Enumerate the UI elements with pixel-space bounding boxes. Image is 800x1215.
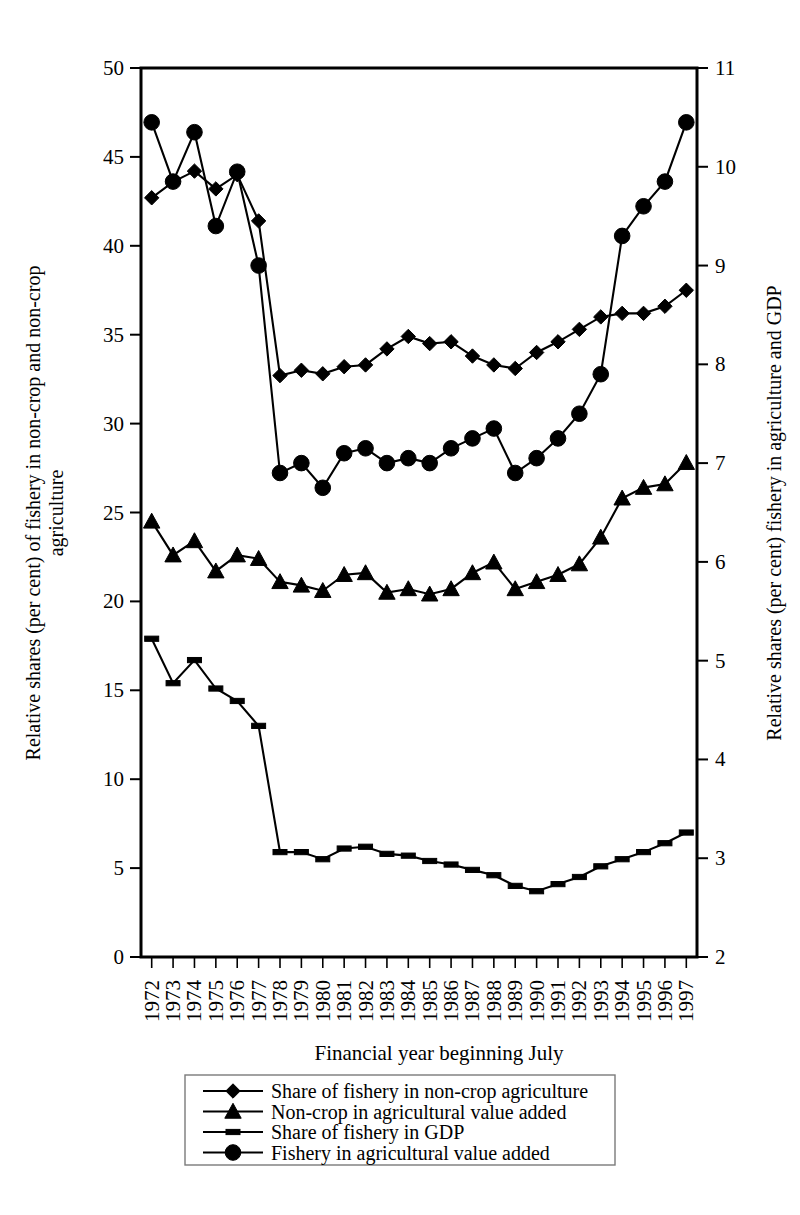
y-axis-left-tick-label: 0 (114, 945, 125, 969)
data-point-dash (316, 857, 330, 862)
data-point-circle (679, 115, 695, 131)
data-point-triangle (186, 533, 202, 548)
y-axis-right-ticks: 234567891011 (697, 56, 736, 969)
data-point-dash (465, 867, 479, 872)
data-point-circle (379, 455, 395, 471)
x-axis-tick-label: 1983 (375, 980, 399, 1022)
data-point-circle (251, 258, 267, 274)
data-point-dash (401, 853, 415, 858)
y-axis-right-title: Relative shares (per cent) fishery in ag… (763, 285, 786, 740)
data-point-circle (486, 421, 502, 437)
data-point-triangle (528, 574, 544, 589)
series-layer (143, 115, 694, 894)
x-axis-tick-label: 1975 (204, 980, 228, 1022)
x-axis-tick-label: 1976 (225, 980, 249, 1022)
series-triangle (143, 455, 694, 601)
data-point-dash (487, 873, 501, 878)
data-point-dash (145, 636, 159, 641)
x-axis-tick-label: 1984 (396, 980, 420, 1023)
y-axis-left-tick-label: 30 (103, 412, 124, 436)
x-axis-tick-label: 1996 (653, 980, 677, 1022)
data-point-diamond (572, 322, 586, 336)
data-point-dash (508, 883, 522, 888)
data-point-diamond (594, 310, 608, 324)
x-axis-tick-label: 1974 (182, 980, 206, 1023)
x-axis-tick-label: 1994 (610, 980, 634, 1023)
data-point-circle (225, 1145, 241, 1161)
data-point-circle (315, 480, 331, 496)
data-point-triangle (593, 529, 609, 544)
data-point-dash (423, 858, 437, 863)
data-point-diamond (294, 363, 308, 377)
data-point-dash (209, 686, 223, 691)
y-axis-left-tick-label: 50 (103, 56, 124, 80)
y-axis-left-tick-label: 25 (103, 501, 124, 525)
data-point-diamond (401, 329, 415, 343)
data-point-dash (551, 882, 565, 887)
x-axis-tick-label: 1997 (674, 980, 698, 1022)
y-axis-left-tick-label: 40 (103, 234, 124, 258)
y-axis-right-tick-label: 7 (715, 451, 726, 475)
x-axis-tick-label: 1980 (311, 980, 335, 1022)
data-point-triangle (165, 547, 181, 562)
data-point-circle (208, 218, 224, 234)
data-point-diamond (251, 214, 265, 228)
x-axis-tick-label: 1987 (460, 980, 484, 1022)
x-axis-title: Financial year beginning July (314, 1041, 564, 1065)
chart-canvas: 05101520253035404550 234567891011 197219… (0, 0, 800, 1215)
data-point-diamond (316, 367, 330, 381)
data-point-circle (422, 455, 438, 471)
data-point-circle (272, 465, 288, 481)
y-axis-right-tick-label: 4 (715, 747, 726, 771)
y-axis-left-tick-label: 45 (103, 145, 124, 169)
x-axis-tick-label: 1991 (546, 980, 570, 1022)
x-axis-tick-label: 1990 (525, 980, 549, 1022)
data-point-circle (507, 465, 523, 481)
data-point-dash (226, 1129, 240, 1134)
series-circle (144, 115, 694, 496)
data-point-circle (614, 228, 630, 244)
data-point-diamond (465, 349, 479, 363)
data-point-dash (658, 841, 672, 846)
data-point-diamond (337, 360, 351, 374)
y-axis-right-tick-label: 9 (715, 254, 726, 278)
y-axis-left-title-line2: agriculture (45, 470, 68, 557)
data-point-diamond (444, 335, 458, 349)
chart-figure: 05101520253035404550 234567891011 197219… (0, 0, 800, 1215)
x-axis-tick-label: 1988 (482, 980, 506, 1022)
x-axis-tick-label: 1978 (268, 980, 292, 1022)
y-axis-left-tick-label: 10 (103, 767, 124, 791)
data-point-dash (359, 844, 373, 849)
data-point-triangle (208, 563, 224, 578)
data-point-circle (529, 450, 545, 466)
data-point-dash (637, 849, 651, 854)
data-point-triangle (357, 565, 373, 580)
data-point-circle (187, 124, 203, 140)
data-point-circle (144, 115, 160, 131)
x-axis-tick-label: 1982 (354, 980, 378, 1022)
x-axis-tick-label: 1979 (289, 980, 313, 1022)
data-point-diamond (422, 336, 436, 350)
data-point-triangle (400, 581, 416, 596)
data-point-diamond (273, 368, 287, 382)
y-axis-right-tick-label: 6 (715, 550, 726, 574)
data-point-circle (165, 174, 181, 190)
data-point-dash (594, 864, 608, 869)
x-axis-tick-label: 1989 (503, 980, 527, 1022)
data-point-circle (229, 164, 245, 180)
y-axis-right-tick-label: 8 (715, 352, 726, 376)
data-point-dash (615, 857, 629, 862)
data-point-circle (336, 445, 352, 461)
data-point-circle (401, 450, 417, 466)
y-axis-left-tick-label: 20 (103, 589, 124, 613)
y-axis-right-tick-label: 2 (715, 945, 726, 969)
data-point-diamond (615, 306, 629, 320)
y-axis-right-tick-label: 10 (715, 155, 736, 179)
data-point-diamond (636, 306, 650, 320)
data-point-circle (358, 440, 374, 456)
y-axis-left-tick-label: 15 (103, 678, 124, 702)
data-point-triangle (464, 565, 480, 580)
x-axis-tick-label: 1977 (247, 980, 271, 1022)
data-point-diamond (551, 335, 565, 349)
series-dash (145, 636, 694, 894)
